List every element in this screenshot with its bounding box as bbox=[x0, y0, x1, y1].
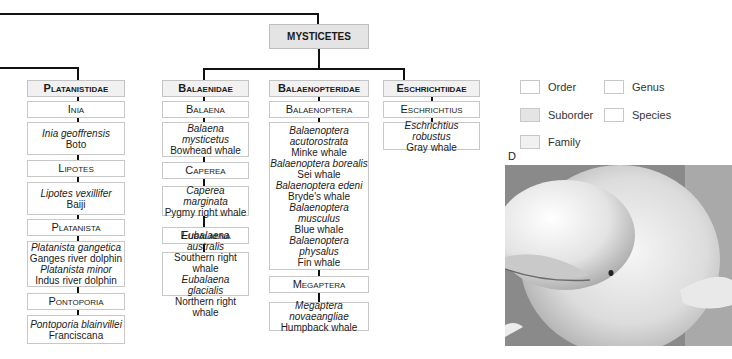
species-lipotes-vexillifer: Lipotes vexillifer Baiji bbox=[27, 182, 125, 215]
genus-inia: Inia bbox=[27, 101, 125, 118]
family-balaenidae: Balaenidae bbox=[162, 80, 249, 97]
legend-swatch-species bbox=[604, 108, 624, 122]
genus-lipotes: Lipotes bbox=[27, 160, 125, 177]
genus-balaenoptera: Balaenoptera bbox=[269, 101, 369, 118]
connector bbox=[203, 216, 205, 227]
species-inia-geoffrensis: Inia geoffrensis Boto bbox=[27, 122, 125, 155]
suborder-mysticetes: MYSTICETES bbox=[269, 24, 369, 49]
legend-swatch-genus bbox=[604, 80, 624, 94]
legend-order: Order bbox=[520, 80, 576, 94]
genus-eschrichtius: Eschrichtius bbox=[383, 101, 480, 118]
species-balaenoptera: Balaenoptera acutorostrata Minke whale B… bbox=[269, 122, 369, 270]
family-eschrichtiidae: Eschrichtiidae bbox=[383, 80, 480, 97]
connector-top-drop bbox=[317, 13, 319, 24]
species-eubalaena: Eubalaena australis Southern right whale… bbox=[162, 252, 249, 296]
genus-platanista: Platanista bbox=[27, 219, 125, 236]
connector-balaenidae-drop bbox=[203, 68, 205, 80]
legend-genus: Genus bbox=[604, 80, 664, 94]
beluga-whale-photo bbox=[505, 165, 732, 346]
connector-top bbox=[0, 13, 319, 15]
species-platanista: Platanista gangetica Ganges river dolphi… bbox=[27, 241, 125, 287]
legend-swatch-suborder bbox=[520, 108, 540, 122]
legend-swatch-family bbox=[520, 135, 540, 149]
legend-family: Family bbox=[520, 135, 580, 149]
suborder-label: MYSTICETES bbox=[287, 31, 351, 42]
family-platanistidae: Platanistidae bbox=[27, 80, 125, 97]
species-balaena-mysticetus: Balaena mysticetus Bowhead whale bbox=[162, 122, 249, 157]
connector-left-h bbox=[0, 67, 79, 69]
species-eschrichtius-robustus: Eschrichtius robustus Gray whale bbox=[383, 122, 480, 150]
family-balaenopteridae: Balaenopteridae bbox=[269, 80, 369, 97]
genus-megaptera: Megaptera bbox=[269, 276, 369, 293]
legend-suborder: Suborder bbox=[520, 108, 593, 122]
species-caperea-marginata: Caperea marginata Pygmy right whale bbox=[162, 186, 249, 216]
beluga-illustration bbox=[505, 165, 732, 346]
connector-platanistidae-drop bbox=[77, 67, 79, 80]
genus-balaena: Balaena bbox=[162, 101, 249, 118]
species-pontoporia-blainvillei: Pontoporia blainvillei Franciscana bbox=[27, 315, 125, 344]
species-megaptera-novaeangliae: Megaptera novaeangliae Humpback whale bbox=[269, 302, 369, 331]
genus-pontoporia: Pontoporia bbox=[27, 293, 125, 310]
legend-species: Species bbox=[604, 108, 671, 122]
connector-families-h bbox=[203, 68, 405, 70]
legend-swatch-order bbox=[520, 80, 540, 94]
photo-label: D bbox=[508, 150, 516, 162]
connector-eschrichtiidae-drop bbox=[403, 68, 405, 80]
genus-caperea: Caperea bbox=[162, 162, 249, 179]
connector-suborder-down bbox=[318, 49, 320, 69]
